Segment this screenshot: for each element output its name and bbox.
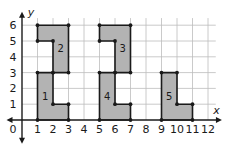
vertex-dot [113, 102, 117, 106]
vertex-dot [67, 71, 71, 75]
x-tick-label: 9 [158, 123, 165, 136]
vertex-dot [129, 23, 133, 27]
vertex-dot [67, 23, 71, 27]
vertex-dot [191, 102, 195, 106]
x-tick-label: 10 [170, 123, 184, 136]
y-tick-label: 3 [10, 67, 17, 80]
figure-label: 2 [58, 43, 64, 54]
vertex-dot [98, 39, 102, 43]
x-tick-label: 6 [112, 123, 119, 136]
figure-label: 4 [104, 91, 110, 102]
x-tick-label: 8 [143, 123, 150, 136]
vertex-dot [98, 71, 102, 75]
vertex-dot [51, 39, 55, 43]
vertex-dot [51, 71, 55, 75]
x-tick-label: 0 [10, 123, 17, 136]
y-axis-label: y [27, 6, 35, 19]
vertex-dot [36, 71, 40, 75]
vertex-dot [36, 39, 40, 43]
x-tick-label: 3 [65, 123, 72, 136]
y-axis-arrow-icon [19, 12, 25, 18]
figures [36, 23, 195, 122]
vertex-dot [113, 71, 117, 75]
vertex-dot [129, 71, 133, 75]
x-tick-label: 2 [50, 123, 57, 136]
x-tick-label: 11 [186, 123, 200, 136]
y-tick-label: 5 [10, 35, 17, 48]
x-axis-label: x [212, 104, 220, 117]
vertex-dot [113, 39, 117, 43]
coordinate-grid: 123450123456789101112123456xy [0, 0, 225, 144]
y-axis-down-arrow-icon [19, 138, 25, 144]
vertex-dot [175, 102, 179, 106]
y-tick-label: 1 [10, 98, 17, 111]
vertex-dot [98, 23, 102, 27]
y-tick-label: 6 [10, 19, 17, 32]
figure-label: 5 [166, 91, 172, 102]
y-tick-label: 4 [10, 51, 17, 64]
vertex-dot [129, 102, 133, 106]
figure-label: 3 [120, 43, 126, 54]
y-tick-label: 2 [10, 82, 17, 95]
figure-label: 1 [42, 91, 48, 102]
x-tick-label: 5 [96, 123, 103, 136]
x-tick-label: 7 [127, 123, 134, 136]
x-tick-label: 12 [201, 123, 215, 136]
x-tick-label: 4 [81, 123, 88, 136]
vertex-dot [51, 102, 55, 106]
x-tick-label: 1 [34, 123, 41, 136]
vertex-dot [160, 71, 164, 75]
x-axis-arrow-icon [216, 117, 222, 123]
vertex-dot [175, 71, 179, 75]
vertex-dot [36, 23, 40, 27]
vertex-dot [67, 102, 71, 106]
